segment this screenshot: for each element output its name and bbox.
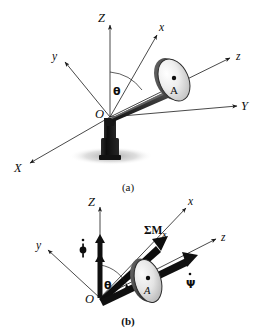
axis-label-x-a: x	[158, 21, 165, 33]
rotor-disk-b	[125, 255, 166, 305]
axis-label-Y-a: Y	[241, 99, 250, 113]
axis-label-y-b: y	[35, 239, 42, 252]
axis-label-X-a: X	[13, 161, 23, 175]
axis-label-x-b: x	[187, 195, 194, 207]
pedestal	[99, 118, 121, 160]
caption-b: (b)	[121, 315, 135, 328]
disk-center-point-a	[172, 76, 176, 80]
disk-point-label-a: A	[170, 84, 178, 96]
axis-y-body-b	[48, 250, 100, 298]
disk-center-point-b	[146, 276, 150, 280]
phi-dot-vector-b	[80, 239, 87, 258]
moment-subscript-text: x	[161, 230, 166, 239]
axis-label-y-a: y	[51, 50, 58, 63]
panel-b-group: Z x y z	[35, 195, 226, 328]
panel-a-group: Z Y X x y z	[13, 11, 250, 194]
theta-label-a: θ	[113, 85, 121, 98]
axis-label-z-a: z	[235, 50, 241, 62]
origin-label-b: O	[85, 292, 94, 306]
axis-label-z-b: z	[220, 231, 226, 243]
caption-a: (a)	[122, 181, 135, 194]
gyroscope-figure-svg: Z Y X x y z	[0, 0, 271, 331]
figure-container: Z Y X x y z	[0, 0, 271, 331]
psi-dot-label-b: Ψ	[186, 278, 195, 291]
psi-dot-overdot-b	[189, 273, 192, 276]
moment-label-b: ΣMx	[144, 224, 166, 239]
theta-label-b: θ	[104, 279, 112, 292]
moment-label-text: ΣM	[144, 224, 163, 236]
disk-point-label-b: A	[143, 285, 151, 296]
axis-label-Z-a: Z	[98, 11, 106, 25]
psi-dot-label-group-b: Ψ	[186, 273, 195, 291]
phi-dot-overdot-b	[82, 239, 85, 242]
origin-label-a: O	[95, 107, 104, 121]
axis-label-Z-b: Z	[88, 195, 96, 209]
